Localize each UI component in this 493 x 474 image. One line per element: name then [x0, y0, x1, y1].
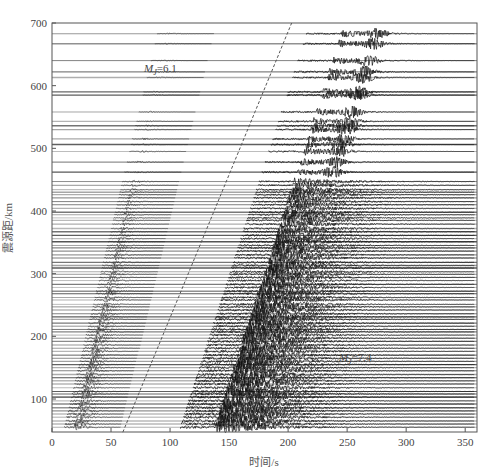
x-tick-label: 350: [457, 436, 474, 448]
x-tick-label: 100: [162, 436, 179, 448]
x-tick-label: 300: [398, 436, 415, 448]
x-tick-label: 250: [339, 436, 356, 448]
y-tick-label: 600: [31, 80, 48, 92]
x-tick-label: 0: [49, 436, 55, 448]
y-tick-label: 100: [31, 393, 48, 405]
y-tick-label: 200: [31, 330, 48, 342]
x-axis-ticks: 050100150200250300350: [49, 428, 474, 448]
y-axis-title: 震源距/km: [1, 203, 14, 254]
magnitude-label: MJ=6.1: [143, 62, 177, 77]
y-tick-label: 400: [31, 205, 48, 217]
x-tick-label: 150: [221, 436, 238, 448]
y-tick-label: 700: [31, 17, 48, 29]
x-axis-title: 时间/s: [249, 456, 278, 468]
y-tick-label: 500: [31, 142, 48, 154]
x-tick-label: 200: [280, 436, 297, 448]
y-tick-label: 300: [31, 268, 48, 280]
seismic-record-section-chart: 050100150200250300350 100200300400500600…: [0, 0, 493, 474]
x-tick-label: 50: [106, 436, 118, 448]
